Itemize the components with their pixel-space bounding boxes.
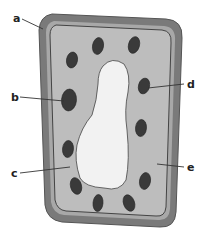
- label-e: e: [187, 161, 194, 174]
- label-b: b: [11, 91, 19, 104]
- label-c: c: [11, 167, 18, 180]
- label-d: d: [187, 78, 195, 91]
- label-a: a: [13, 12, 20, 25]
- plant-cell-diagram: a b c d e: [0, 0, 208, 245]
